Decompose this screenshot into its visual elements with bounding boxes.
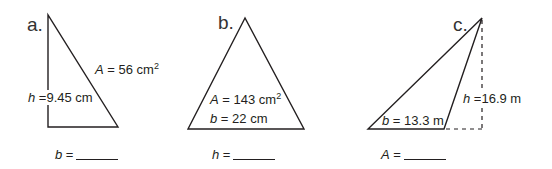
height-given-a: h =9.45 cm (28, 91, 93, 104)
problem-label-c: c. (453, 15, 468, 34)
answer-blank-a: b = (55, 148, 118, 161)
problem-label-a: a. (27, 15, 43, 34)
answer-blank-c: A = (381, 148, 446, 161)
answer-line-c[interactable] (404, 148, 446, 160)
answer-line-a[interactable] (76, 148, 118, 160)
area-given-a: A = 56 cm2 (95, 62, 159, 76)
answer-line-b[interactable] (233, 148, 275, 160)
base-given-c: b = 13.3 m (382, 114, 444, 127)
height-given-c: h =16.9 m (463, 92, 521, 105)
triangle-area-worksheet: a. A = 56 cm2 h =9.45 cm b = b. A = 143 … (0, 0, 552, 169)
problem-label-b: b. (218, 13, 234, 32)
base-given-b: b = 22 cm (210, 112, 267, 125)
answer-blank-b: h = (212, 148, 275, 161)
area-given-b: A = 143 cm2 (210, 92, 281, 106)
triangles-drawing (0, 0, 552, 169)
